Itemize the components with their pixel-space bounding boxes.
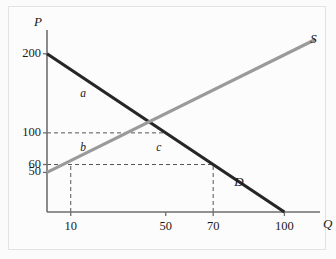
curve-label-D: D xyxy=(234,174,243,190)
x-tick-label-100: 100 xyxy=(264,219,304,234)
y-tick-label-100: 100 xyxy=(22,125,41,140)
region-label-a: a xyxy=(80,87,86,99)
y-tick-label-200: 200 xyxy=(22,46,41,61)
region-label-b: b xyxy=(80,141,86,153)
curves xyxy=(47,39,315,212)
curve-label-S: S xyxy=(310,31,317,47)
x-tick-label-50: 50 xyxy=(146,219,186,234)
x-axis-label: Q xyxy=(323,216,332,232)
x-tick-label-70: 70 xyxy=(193,219,233,234)
y-axis-label: P xyxy=(34,14,42,30)
y-tick-label-50: 50 xyxy=(29,164,42,179)
supply-demand-figure: P Q 2001006050 105070100 DS abc xyxy=(0,0,336,259)
curve-S xyxy=(47,39,315,172)
region-label-c: c xyxy=(156,141,161,153)
guide-lines xyxy=(47,133,213,212)
x-tick-label-10: 10 xyxy=(51,219,91,234)
